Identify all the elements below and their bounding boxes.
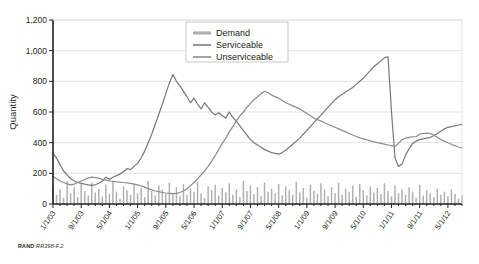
- x-tick-label: 5/1/08: [264, 209, 283, 231]
- legend-label: Unserviceable: [216, 52, 273, 62]
- x-tick-label: 5/1/04: [95, 209, 114, 231]
- x-tick-label: 9/1/09: [320, 209, 339, 231]
- x-tick-label: 9/1/05: [151, 209, 170, 231]
- x-tick-label: 1/1/11: [377, 209, 396, 231]
- x-tick-label: 1/1/09: [292, 209, 311, 231]
- credit-org: RAND: [18, 243, 34, 249]
- y-axis-title: Quantity: [7, 94, 18, 130]
- x-tick-label: 9/1/03: [66, 209, 85, 231]
- y-tick-label: 200: [33, 168, 47, 178]
- x-tick-label: 1/1/03: [38, 209, 57, 231]
- figure-credit: RAND RR398-F.2: [18, 243, 64, 249]
- y-tick-label: 600: [33, 107, 47, 117]
- x-tick-label: 5/1/06: [179, 209, 198, 231]
- figure-container: 02004006008001,0001,200 1/1/039/1/035/1/…: [0, 0, 479, 264]
- series-line: [53, 57, 462, 186]
- legend-label: Demand: [216, 28, 250, 38]
- y-tick-labels: 02004006008001,0001,200: [26, 15, 48, 209]
- chart-canvas: 02004006008001,0001,200 1/1/039/1/035/1/…: [0, 0, 479, 264]
- x-tick-label: 5/1/12: [433, 209, 452, 231]
- x-tick-label: 9/1/07: [236, 209, 255, 231]
- x-tick-label: 1/1/07: [207, 209, 226, 231]
- chart-legend: DemandServiceableUnserviceable: [186, 22, 288, 62]
- legend-label: Serviceable: [216, 40, 263, 50]
- y-tick-label: 800: [33, 76, 47, 86]
- y-tick-label: 1,200: [26, 15, 48, 25]
- x-tick-labels: 1/1/039/1/035/1/041/1/059/1/055/1/061/1/…: [38, 204, 462, 231]
- y-tick-label: 400: [33, 138, 47, 148]
- credit-ref: RR398-F.2: [36, 243, 63, 249]
- y-tick-label: 1,000: [26, 46, 48, 56]
- x-tick-label: 9/1/11: [405, 209, 424, 231]
- demand-bars: [53, 181, 462, 204]
- x-tick-label: 5/1/10: [348, 209, 367, 231]
- y-tick-label: 0: [42, 199, 47, 209]
- x-tick-label: 1/1/05: [123, 209, 142, 231]
